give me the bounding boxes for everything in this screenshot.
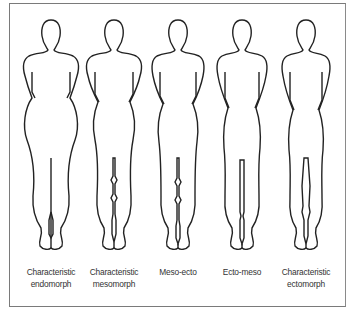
label-ecto-meso: Ecto-meso	[207, 266, 277, 278]
label-line-2: ectomorph	[271, 278, 341, 290]
figure-meso-ecto	[146, 16, 210, 266]
label-endomorph: Characteristic endomorph	[16, 266, 86, 290]
label-mesomorph: Characteristic mesomorph	[79, 266, 149, 290]
label-line-1: Characteristic	[16, 266, 86, 278]
label-ectomorph: Characteristic ectomorph	[271, 266, 341, 290]
label-line-1: Ecto-meso	[207, 266, 277, 278]
label-meso-ecto: Meso-ecto	[143, 266, 213, 278]
figure-ectomorph	[274, 16, 338, 266]
body-silhouette-icon	[19, 16, 83, 266]
label-line-1: Meso-ecto	[143, 266, 213, 278]
label-line-2: endomorph	[16, 278, 86, 290]
label-line-1: Characteristic	[79, 266, 149, 278]
body-silhouette-icon	[274, 16, 338, 266]
figure-ecto-meso	[210, 16, 274, 266]
figure-mesomorph	[82, 16, 146, 266]
body-silhouette-icon	[146, 16, 210, 266]
label-line-2: mesomorph	[79, 278, 149, 290]
body-silhouette-icon	[82, 16, 146, 266]
figure-endomorph	[19, 16, 83, 266]
label-line-1: Characteristic	[271, 266, 341, 278]
body-silhouette-icon	[210, 16, 274, 266]
